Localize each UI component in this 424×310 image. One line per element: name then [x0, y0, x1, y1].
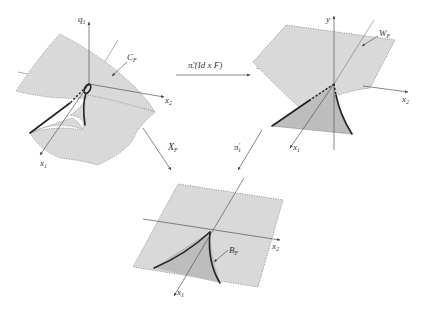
panel-image-surface: WF y x2 x1 [253, 14, 409, 153]
x1-label-right-panel: x1 [292, 142, 300, 153]
pi1-map-arrow [238, 130, 262, 170]
pi1-map-label: π′1 [234, 141, 241, 153]
cf-label: CF [127, 52, 137, 63]
x2-label-right-panel: x2 [401, 94, 409, 105]
x1-label-bottom-panel: x1 [176, 287, 184, 298]
map-diagonal-left: XF [143, 128, 178, 170]
xf-map-label: XF [167, 141, 178, 153]
y-label: y [325, 14, 330, 24]
xf-map-arrow [143, 128, 171, 170]
map-diagonal-right: π′1 [234, 130, 262, 170]
x2-label-left-panel: x2 [164, 95, 172, 106]
horizontal-map-label: π̃.(Id x F) [188, 60, 222, 70]
q1-label: q1 [78, 14, 86, 25]
x2-axis-right-panel [363, 86, 408, 92]
wf-label: WF [379, 28, 391, 39]
left-stub-line [18, 72, 28, 74]
panel-catastrophe-manifold: CF q1 x2 x1 [16, 14, 172, 169]
panel-bifurcation-set: BF x2 x1 [133, 178, 283, 298]
map-horizontal: π̃.(Id x F) [176, 60, 250, 75]
cusp-catastrophe-diagram: CF q1 x2 x1 π̃.(Id x F) WF y x2 [0, 0, 424, 310]
x2-label-bottom-panel: x2 [271, 241, 279, 252]
x1-label-left-panel: x1 [39, 158, 47, 169]
